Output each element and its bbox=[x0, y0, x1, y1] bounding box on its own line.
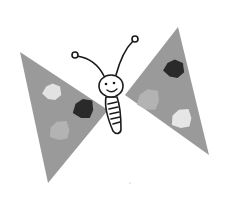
left-antenna-tip bbox=[72, 52, 78, 58]
speck bbox=[129, 182, 131, 184]
head-circle bbox=[99, 75, 123, 97]
right-antenna-tip bbox=[132, 36, 138, 42]
butterfly-illustration bbox=[0, 0, 230, 218]
left-eye bbox=[105, 83, 108, 86]
right-eye bbox=[113, 82, 116, 85]
head bbox=[99, 75, 123, 97]
